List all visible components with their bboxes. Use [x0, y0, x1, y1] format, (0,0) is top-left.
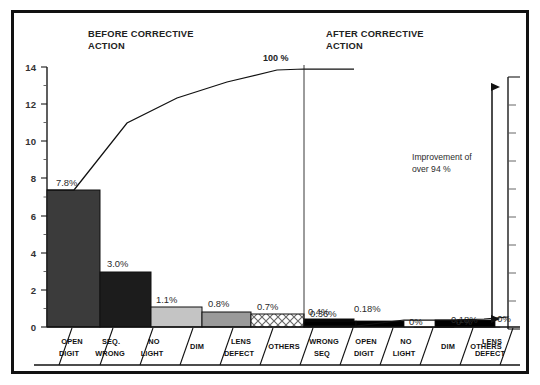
bar-before-no-light [151, 307, 202, 327]
label-before-open-digit: 7.8% [56, 177, 77, 188]
bar-before-dim [202, 312, 251, 327]
y-tick-8: 8 [31, 173, 37, 184]
y-tick-4: 4 [31, 248, 37, 259]
cat-after-0-line1: WRONG [309, 337, 339, 346]
label-before-lens-defect: 0.7% [257, 301, 278, 312]
pareto-chart: BEFORE CORRECTIVE ACTION AFTER CORRECTIV… [14, 13, 532, 377]
label-before-dim: 0.8% [208, 298, 229, 309]
y-axis-right [508, 77, 520, 329]
cat-after-2-line2: LIGHT [393, 349, 416, 358]
cat-before-3-line1: DIM [190, 342, 204, 351]
y-tick-10: 10 [25, 136, 36, 147]
title-before-line1: BEFORE CORRECTIVE [88, 29, 194, 39]
label-after-lens-defect: 0% [497, 313, 511, 324]
cat-before-0-line2: DIGIT [59, 349, 80, 358]
category-labels-after: WRONG SEQ OPEN DIGIT NO LIGHT DIM LENS D… [309, 337, 505, 358]
label-before-no-light: 1.1% [156, 294, 177, 305]
cat-after-1-line1: OPEN [355, 337, 376, 346]
title-after-line1: AFTER CORRECTIVE [326, 29, 424, 39]
bar-before-open-digit [47, 190, 100, 327]
cat-before-5-line1: OTHERS [268, 342, 299, 351]
cumulative-100-label: 100 % [263, 53, 289, 63]
cat-before-4-line2: DEFECT [224, 349, 255, 358]
bar-before-lens-defect [251, 314, 304, 327]
label-before-seq-wrong: 3.0% [107, 258, 128, 269]
cat-before-2-line1: NO [148, 337, 159, 346]
y-tick-6: 6 [31, 211, 36, 222]
cat-before-2-line2: LIGHT [141, 349, 164, 358]
cat-before-1-line2: WRONG [95, 349, 125, 358]
bar-after-open-digit [356, 321, 404, 327]
cat-before-1-line1: SEQ. [102, 337, 120, 346]
cat-before-0-line1: OPEN [61, 337, 82, 346]
y-axis-left: 14 12 10 8 6 4 2 0 [25, 62, 47, 333]
label-after-no-light: 0% [409, 316, 423, 327]
cat-after-1-line2: DIGIT [354, 349, 375, 358]
y-tick-14: 14 [25, 62, 36, 73]
improvement-label-line2: over 94 % [412, 164, 451, 174]
cat-after-0-line2: SEQ [314, 349, 330, 358]
label-after-open-digit: 0.18% [354, 303, 381, 314]
improvement-label-line1: Improvement of [412, 152, 472, 162]
label-after-wrong-seq: 0.36% [310, 308, 337, 319]
cat-after-3-line1: DIM [441, 342, 455, 351]
cat-after-2-line1: NO [400, 337, 411, 346]
cat-before-4-line1: LENS [231, 337, 251, 346]
y-tick-0: 0 [31, 322, 36, 333]
title-before-line2: ACTION [88, 41, 125, 51]
y-tick-2: 2 [31, 285, 36, 296]
y-tick-12: 12 [25, 99, 36, 110]
cumulative-line-before [47, 69, 354, 190]
cat-after-5-line1: OTHERS [470, 342, 501, 351]
bar-before-seq-wrong [100, 272, 151, 327]
title-after-line2: ACTION [326, 41, 363, 51]
chart-frame: BEFORE CORRECTIVE ACTION AFTER CORRECTIV… [11, 10, 529, 374]
